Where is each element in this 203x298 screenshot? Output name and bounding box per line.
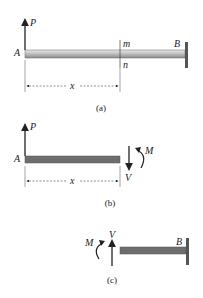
dimension-label-x: x xyxy=(69,175,75,186)
moment-arrow-m-cw xyxy=(137,150,144,168)
moment-label-m: M xyxy=(84,237,94,248)
end-label-a: A xyxy=(13,47,21,58)
fixed-wall-b xyxy=(186,238,189,265)
beam-ab xyxy=(25,50,185,58)
caption-a: (a) xyxy=(96,103,106,113)
load-label-p: P xyxy=(29,17,36,28)
dimension-label-x: x xyxy=(69,80,75,91)
moment-label-m: M xyxy=(144,145,154,156)
figure-a: P A B m n x (a) xyxy=(13,17,188,113)
shear-label-v: V xyxy=(109,229,117,240)
figure-b: P A V M x (b) xyxy=(13,121,154,208)
fixed-wall-b xyxy=(185,42,188,68)
cantilever-beam-diagram: P A B m n x (a) P A V M x (b) B V xyxy=(0,0,203,298)
section-label-m: m xyxy=(123,38,130,49)
shear-label-v: V xyxy=(125,172,133,183)
caption-b: (b) xyxy=(105,198,116,208)
section-label-n: n xyxy=(123,59,128,70)
moment-arrow-m-ccw xyxy=(96,243,103,259)
figure-c: B V M (c) xyxy=(84,229,189,285)
free-body-beam-left xyxy=(25,156,120,163)
free-body-beam-right xyxy=(120,247,186,254)
end-label-b: B xyxy=(174,38,180,49)
end-label-a: A xyxy=(13,153,21,164)
end-label-b: B xyxy=(176,236,182,247)
caption-c: (c) xyxy=(107,275,117,285)
load-label-p: P xyxy=(29,121,36,132)
